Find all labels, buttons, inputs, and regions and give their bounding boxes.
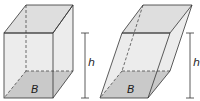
oblique-prism: h B bbox=[100, 5, 200, 98]
height-label: h bbox=[88, 56, 95, 69]
height-label: h bbox=[193, 56, 200, 69]
prism-diagram: h B h B bbox=[0, 0, 200, 101]
base-label: B bbox=[31, 83, 39, 96]
base-label: B bbox=[127, 83, 135, 96]
right-prism: h B bbox=[4, 5, 95, 98]
